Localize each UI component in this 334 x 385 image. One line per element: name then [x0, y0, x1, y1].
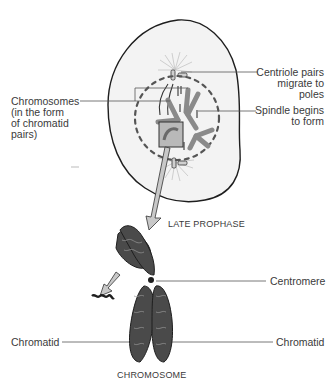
enlarged-chromosome: [116, 226, 173, 362]
label-chromatid-left: Chromatid: [11, 337, 59, 348]
centromere-knob: [148, 277, 154, 283]
caption-chromosome: CHROMOSOME: [117, 370, 187, 381]
label-chromatid-right: Chromatid: [276, 337, 324, 348]
mitosis-diagram: [0, 0, 334, 385]
uncoiled-dna-strand: [92, 295, 114, 298]
chromosome-callout-box: [159, 122, 183, 147]
caption-late-prophase: LATE PROPHASE: [168, 219, 245, 230]
label-spindle: Spindle begins to form: [252, 105, 324, 127]
label-chromosomes: Chromosomes (in the form of chromatid pa…: [11, 96, 79, 140]
label-centriole-pairs: Centriole pairs migrate to poles: [252, 67, 324, 100]
uncoil-arrow: [100, 272, 120, 296]
label-centromere: Centromere: [270, 276, 325, 287]
